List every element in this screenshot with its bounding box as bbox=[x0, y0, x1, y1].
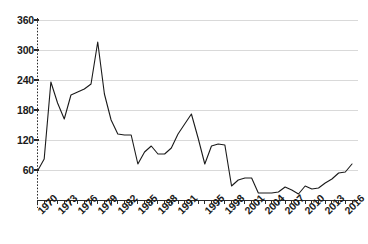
line-chart: 60120180240300360 1970197319761979198219… bbox=[0, 0, 368, 244]
x-axis-tick-label: 1970 bbox=[35, 192, 59, 216]
x-axis-tick-label: 2004 bbox=[262, 192, 286, 216]
x-axis-tick-label: 1998 bbox=[222, 192, 246, 216]
x-axis-tick-label: 2010 bbox=[302, 192, 326, 216]
x-axis-tick-label: 1979 bbox=[95, 192, 119, 216]
x-axis-tick-label: 1973 bbox=[55, 192, 79, 216]
x-axis-tick-label: 1988 bbox=[155, 192, 179, 216]
x-axis-labels: 1970197319761979198219851988199119951998… bbox=[0, 0, 368, 244]
x-axis-tick-label: 1982 bbox=[115, 192, 139, 216]
x-axis-tick-label: 1976 bbox=[75, 192, 99, 216]
x-axis-tick-label: 1985 bbox=[135, 192, 159, 216]
x-axis-tick-label: 1995 bbox=[202, 192, 226, 216]
x-axis-tick-label: 1991 bbox=[175, 192, 199, 216]
x-axis-tick-label: 2016 bbox=[342, 192, 366, 216]
x-axis-tick-label: 2001 bbox=[242, 192, 266, 216]
x-axis-tick-label: 2013 bbox=[322, 192, 346, 216]
x-axis-tick-label: 2007 bbox=[282, 192, 306, 216]
